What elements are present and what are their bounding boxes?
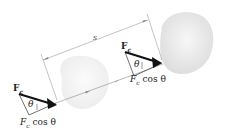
diagram-canvas: [0, 0, 229, 134]
force-subscript: c: [127, 46, 131, 53]
angle-label-initial: θ: [28, 100, 33, 109]
body-initial: [60, 56, 109, 109]
force-triangle-initial: [19, 94, 57, 115]
extension-line-left: [41, 54, 57, 100]
force-subscript: c: [19, 88, 23, 95]
force-label-final: Fc: [121, 42, 131, 53]
extension-line-right: [147, 14, 162, 60]
body-final: [160, 12, 213, 74]
component-suffix: cos θ: [140, 74, 166, 84]
angle-label-final: θ: [134, 60, 139, 69]
component-suffix: cos θ: [30, 117, 56, 127]
component-label-final: Fc cos θ: [130, 75, 166, 86]
force-triangle-final: [125, 52, 162, 76]
component-label-initial: Fc cos θ: [20, 118, 56, 129]
force-label-initial: Fc: [13, 84, 23, 95]
dimension-label: s: [93, 34, 97, 42]
